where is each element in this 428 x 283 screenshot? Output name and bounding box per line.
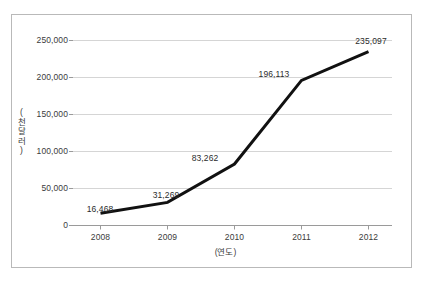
ytick-label-100000: 100,000	[26, 146, 68, 156]
xtick-label-2008: 2008	[80, 232, 121, 242]
xtick-label-2009: 2009	[147, 232, 188, 242]
ytick-label-0: 0	[26, 220, 68, 230]
xtick-label-2012: 2012	[348, 232, 389, 242]
data-label-2011: 196,113	[247, 69, 301, 79]
y-axis-title: ( 천 달 러 )	[16, 108, 27, 156]
data-label-2008: 16,468	[75, 204, 125, 214]
chart-border	[11, 14, 412, 268]
x-axis-title: (연도)	[205, 245, 246, 257]
data-label-2012: 235,097	[344, 36, 398, 46]
xtick-label-2011: 2011	[281, 232, 322, 242]
ytick-label-150000: 150,000	[26, 109, 68, 119]
xtick-label-2010: 2010	[214, 232, 255, 242]
ytick-label-250000: 250,000	[26, 35, 68, 45]
data-label-2010: 83,262	[180, 153, 230, 163]
chart-figure: 250,000 200,000 150,000 100,000 50,000 0…	[0, 0, 428, 283]
ytick-label-200000: 200,000	[26, 72, 68, 82]
data-label-2009: 31,269	[141, 190, 191, 200]
y-axis-title-char-4: )	[16, 146, 27, 156]
ytick-label-50000: 50,000	[26, 183, 68, 193]
